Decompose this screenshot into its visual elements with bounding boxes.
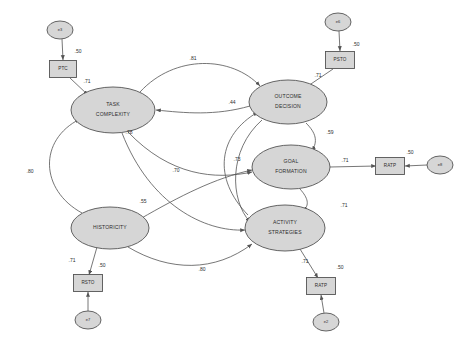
edge-outcome-task-44 — [156, 106, 250, 113]
node-outcome-decision[interactable] — [249, 80, 327, 124]
diagram-canvas: e3 e6 e8 e7 e2 PTC PSTO RATP RSTO RATP T… — [0, 0, 472, 343]
weight-outcome-task: .44 — [229, 99, 236, 105]
weight-e3-ptc: .50 — [75, 48, 82, 54]
weight-e8-ratp: .50 — [407, 149, 414, 155]
edge-task-goal-78 — [128, 132, 252, 175]
node-goal-formation-label-line2: FORMATION — [275, 168, 307, 174]
weight-goal-activity: .71 — [341, 202, 348, 208]
node-ratp-bottom-label: RATP — [315, 283, 327, 288]
edge-historicity-task-80 — [49, 119, 82, 213]
weight-psto-outcome: .71 — [315, 72, 322, 78]
node-e3-label: e3 — [58, 27, 63, 32]
edge-e6-psto — [339, 31, 340, 51]
weight-ptc-task: .71 — [84, 78, 91, 84]
weight-historicity-55: .55 — [140, 198, 147, 204]
weight-task-78: .78 — [126, 129, 133, 135]
node-ptc-label: PTC — [58, 66, 68, 71]
node-e7-label: e7 — [86, 317, 91, 322]
weight-historicity-rsto: .71 — [69, 257, 76, 263]
weight-ratp-e2: .50 — [337, 264, 344, 270]
node-historicity-label-line1: HISTORICITY — [93, 224, 127, 230]
node-goal-formation[interactable] — [252, 145, 330, 189]
edge-historicity-rsto — [89, 247, 97, 275]
sem-path-diagram: e3 e6 e8 e7 e2 PTC PSTO RATP RSTO RATP T… — [0, 0, 472, 343]
edge-task-outcome-81 — [140, 63, 260, 92]
weight-73: .73 — [234, 156, 241, 162]
node-task-complexity[interactable] — [71, 87, 155, 133]
node-psto-label: PSTO — [334, 57, 347, 62]
edge-e3-ptc — [62, 39, 63, 60]
weight-70: .70 — [173, 167, 180, 173]
node-ratp-right-label: RATP — [384, 163, 396, 168]
weight-rsto-e7: .50 — [99, 262, 106, 268]
edges-layer — [49, 31, 427, 313]
node-activity-strategies-label-line2: STRATEGIES — [268, 229, 302, 235]
node-activity-strategies-label-line1: ACTIVITY — [273, 219, 298, 225]
node-e6-label: e6 — [336, 19, 341, 24]
weight-activity-ratp: .71 — [302, 258, 309, 264]
weight-outcome-goal: .59 — [327, 129, 334, 135]
node-e8-label: e8 — [438, 162, 443, 167]
edge-historicity-activity-80 — [128, 244, 252, 265]
edge-goal-ratp8 — [330, 166, 376, 167]
edge-e2-ratp2 — [321, 295, 324, 313]
weight-e6-psto: .50 — [353, 41, 360, 47]
weight-task-outcome: .81 — [190, 55, 197, 61]
node-goal-formation-label-line1: GOAL — [284, 158, 299, 164]
node-outcome-decision-label-line1: OUTCOME — [274, 93, 302, 99]
node-task-complexity-label-line2: COMPLEXITY — [96, 111, 131, 117]
nodes-layer: e3 e6 e8 e7 e2 PTC PSTO RATP RSTO RATP T… — [47, 13, 453, 331]
node-activity-strategies[interactable] — [245, 205, 325, 251]
node-e2-label: e2 — [324, 319, 329, 324]
weight-80-left: .80 — [27, 168, 34, 174]
edge-e8-ratp8 — [405, 165, 427, 166]
weight-goal-ratp: .71 — [342, 157, 349, 163]
weight-80-bottom: .80 — [199, 266, 206, 272]
node-outcome-decision-label-line2: DECISION — [275, 103, 301, 109]
node-rsto-label: RSTO — [81, 280, 94, 285]
node-task-complexity-label-line1: TASK — [106, 101, 120, 107]
